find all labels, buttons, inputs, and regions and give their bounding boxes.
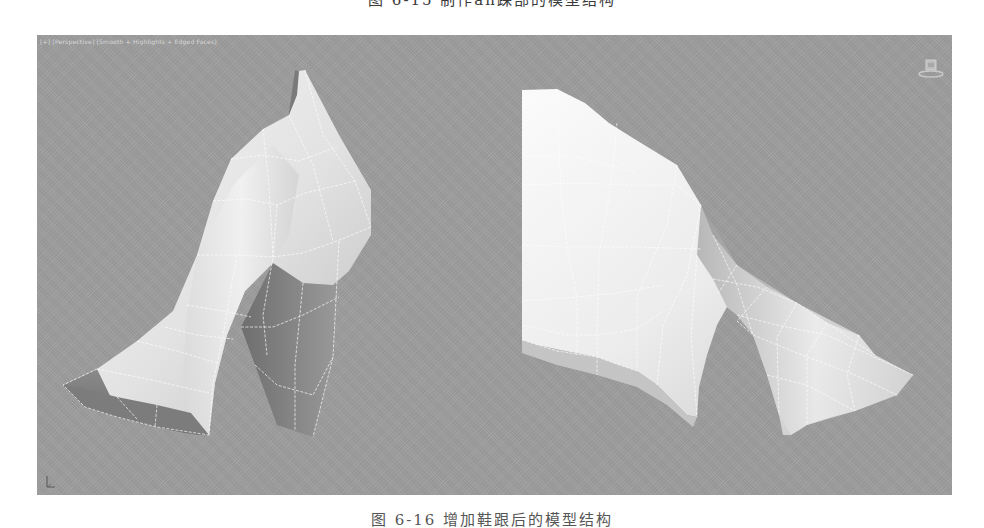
figure-caption-top: 图 6-15 制作an踝部的模型结构 <box>0 0 984 8</box>
scene-canvas <box>37 35 952 495</box>
3d-viewport[interactable]: [+] [Perspective] [Smooth + Highlights +… <box>37 35 952 495</box>
shoe-model-right[interactable] <box>522 89 913 435</box>
figure-caption-bottom: 图 6-16 增加鞋跟后的模型结构 <box>0 512 984 528</box>
shoe-model-left[interactable] <box>63 70 371 437</box>
